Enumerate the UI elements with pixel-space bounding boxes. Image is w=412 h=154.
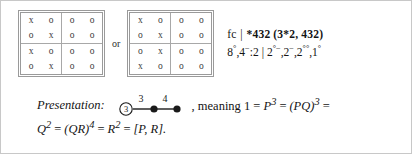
matrix-cell: o xyxy=(171,59,192,74)
matrix-cell: x xyxy=(130,59,150,74)
matrix-cell: x xyxy=(41,59,62,74)
notation-item: 2− xyxy=(284,46,294,58)
figure-root: xooooxooxooooxoo or xooooxoooxooxooo fc|… xyxy=(0,0,412,154)
orbifold-paren-group: (3*2, 432) xyxy=(273,28,323,40)
table-row: xooo xyxy=(130,59,211,74)
coxeter-node-2 xyxy=(150,105,157,112)
matrix-cell: x xyxy=(21,13,41,28)
matrix-right-container: xooooxoooxooxooo xyxy=(127,10,214,77)
table-row: oxoo xyxy=(21,59,102,74)
matrix-right-inner-border: xooooxoooxooxooo xyxy=(129,12,212,75)
matrix-cell: o xyxy=(82,13,102,28)
matrix-cell: o xyxy=(171,13,192,28)
matrix-cell: o xyxy=(82,43,102,59)
matrix-right: xooooxoooxooxooo xyxy=(130,13,211,74)
matrix-cell: o xyxy=(150,13,171,28)
matrix-cell: o xyxy=(150,59,171,74)
matrix-cell: o xyxy=(191,28,211,44)
notation-item: 1° xyxy=(312,46,321,58)
coxeter-node-1-label: 3 xyxy=(123,104,127,114)
orbifold-symbol: *432 xyxy=(247,28,271,40)
notation-item: 2°− xyxy=(267,46,281,58)
notation-line-1: fc|*432 (3*2, 432) xyxy=(227,26,323,42)
table-row: oxoo xyxy=(130,43,211,59)
matrix-cell: o xyxy=(41,13,62,28)
notation-line-1-bar: | xyxy=(240,28,242,40)
matrix-cell: o xyxy=(41,43,62,59)
fc-label: fc xyxy=(227,28,236,40)
relation-term: (PQ)3 xyxy=(289,99,319,113)
presentation-line-1: Presentation: 3 3 4 , meaning 1 = P3=(PQ… xyxy=(37,93,409,117)
matrix-left-outer-border: xooooxooxooooxoo xyxy=(18,10,105,77)
matrix-cell: x xyxy=(130,13,150,28)
coxeter-edge-1-label: 3 xyxy=(138,93,143,104)
matrix-cell: o xyxy=(82,59,102,74)
matrix-cell: o xyxy=(171,28,192,44)
matrix-cell: o xyxy=(62,59,83,74)
matrix-cell: o xyxy=(82,28,102,44)
matrix-cell: o xyxy=(130,43,150,59)
matrix-cell: o xyxy=(62,13,83,28)
table-row: oxoo xyxy=(130,28,211,44)
table-row: oxoo xyxy=(21,28,102,44)
matrix-cell: o xyxy=(191,13,211,28)
coxeter-diagram: 3 3 4 xyxy=(116,93,190,117)
matrices-row: xooooxooxooooxoo or xooooxoooxooxooo fc|… xyxy=(1,7,412,79)
presentation-meaning-text: , meaning 1 = P3=(PQ)3= xyxy=(192,96,333,114)
or-separator-label: or xyxy=(112,38,120,49)
coxeter-node-3 xyxy=(173,105,180,112)
notation-items: 2°−,2−,2°°,1° xyxy=(267,46,321,58)
relation-term: Q2 xyxy=(37,122,51,136)
matrix-cell: x xyxy=(150,28,171,44)
matrix-cell: x xyxy=(21,43,41,59)
table-row: xooo xyxy=(130,13,211,28)
presentation-block: Presentation: 3 3 4 , meaning 1 = P3=(PQ… xyxy=(37,93,409,137)
notation-left-term-b: 4−:2 xyxy=(239,46,258,58)
presentation-label: Presentation: xyxy=(37,98,105,113)
commutator-term: [P, R]. xyxy=(133,122,166,136)
matrix-cell: o xyxy=(130,28,150,44)
matrix-cell: o xyxy=(21,59,41,74)
matrix-cell: o xyxy=(171,43,192,59)
matrix-cell: o xyxy=(62,43,83,59)
relation-term: P3 xyxy=(264,99,277,113)
presentation-line-2: Q2=(QR)4=R2=[P, R]. xyxy=(37,119,409,137)
coxeter-edge-2-label: 4 xyxy=(162,93,167,104)
matrix-cell: o xyxy=(62,28,83,44)
matrix-left-inner-border: xooooxooxooooxoo xyxy=(20,12,103,75)
matrix-cell: x xyxy=(41,28,62,44)
matrix-cell: o xyxy=(191,43,211,59)
matrix-left-container: xooooxooxooooxoo xyxy=(18,10,105,77)
notation-line-2-bar: | xyxy=(262,46,264,58)
matrix-cell: x xyxy=(150,43,171,59)
matrix-right-outer-border: xooooxoooxooxooo xyxy=(127,10,214,77)
matrix-cell: o xyxy=(21,28,41,44)
relation-term: R2 xyxy=(108,122,121,136)
matrix-left: xooooxooxooooxoo xyxy=(21,13,102,74)
matrix-cell: o xyxy=(191,59,211,74)
table-row: xooo xyxy=(21,43,102,59)
table-row: xooo xyxy=(21,13,102,28)
notation-block: fc|*432 (3*2, 432) 8°,4−:2|2°−,2−,2°°,1° xyxy=(227,26,323,60)
relation-term: (QR)4 xyxy=(64,122,94,136)
notation-item: 2°° xyxy=(297,46,309,58)
notation-line-2: 8°,4−:2|2°−,2−,2°°,1° xyxy=(227,44,323,60)
